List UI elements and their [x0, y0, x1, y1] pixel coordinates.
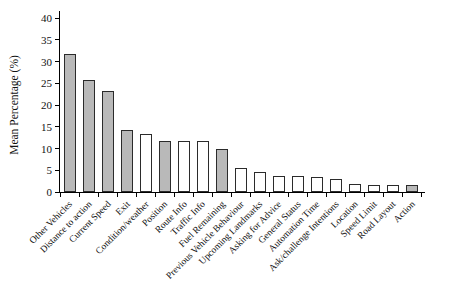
bar-upcoming-landmarks	[254, 172, 266, 192]
bar-ask-challenge-intentions	[330, 179, 342, 192]
x-axis-tick	[136, 193, 137, 197]
x-axis-tick	[364, 193, 365, 197]
bar-action	[406, 185, 418, 192]
x-axis-tick	[117, 193, 118, 197]
bar-previous-vehicle-behaviour	[235, 168, 247, 192]
bar-current-speed	[102, 91, 114, 192]
x-axis-tick	[269, 193, 270, 197]
x-axis-tick	[231, 193, 232, 197]
x-axis-tick	[174, 193, 175, 197]
y-tick-label: 5	[14, 164, 52, 176]
y-axis-tick	[55, 18, 60, 19]
x-axis-tick	[250, 193, 251, 197]
bar-speed-limit	[368, 185, 380, 192]
y-axis-tick	[55, 105, 60, 106]
bar-chart-figure: Mean Percentage (%) 0510152025303540Othe…	[0, 0, 454, 300]
bar-asking-for-advice	[273, 176, 285, 192]
bar-position	[159, 141, 171, 192]
y-axis-tick	[55, 148, 60, 149]
bar-traffic-info	[197, 141, 209, 192]
x-axis-tick	[402, 193, 403, 197]
y-axis-tick	[55, 83, 60, 84]
y-tick-label: 25	[14, 77, 52, 89]
bar-other-vehicles	[64, 54, 76, 192]
x-axis-tick	[155, 193, 156, 197]
y-axis-tick	[55, 126, 60, 127]
bar-condition-weather	[140, 134, 152, 192]
x-axis-tick	[98, 193, 99, 197]
bar-location	[349, 184, 361, 192]
y-tick-label: 35	[14, 34, 52, 46]
x-axis-tick	[307, 193, 308, 197]
x-axis-tick	[60, 193, 61, 197]
y-axis-tick	[55, 39, 60, 40]
bar-fuel-remaining	[216, 149, 228, 193]
bar-route-info	[178, 141, 190, 192]
y-tick-label: 40	[14, 12, 52, 24]
y-tick-label: 10	[14, 143, 52, 155]
x-axis-tick	[345, 193, 346, 197]
bar-distance-to-action	[83, 80, 95, 192]
bar-road-layout	[387, 185, 399, 192]
y-tick-label: 15	[14, 121, 52, 133]
y-axis-tick	[55, 61, 60, 62]
plot-area: 0510152025303540Other VehiclesDistance t…	[60, 18, 421, 192]
y-axis-tick	[55, 170, 60, 171]
bar-automation-time	[311, 177, 323, 192]
x-axis-tick	[326, 193, 327, 197]
x-axis-tick	[288, 193, 289, 197]
bar-general-status	[292, 176, 304, 192]
y-tick-label: 30	[14, 56, 52, 68]
x-axis-tick	[79, 193, 80, 197]
x-axis-tick	[193, 193, 194, 197]
x-axis-tick	[421, 193, 422, 197]
x-axis-line	[59, 192, 425, 193]
y-tick-label: 0	[14, 186, 52, 198]
x-axis-tick	[383, 193, 384, 197]
y-tick-label: 20	[14, 99, 52, 111]
x-axis-tick	[212, 193, 213, 197]
bar-exit	[121, 130, 133, 192]
